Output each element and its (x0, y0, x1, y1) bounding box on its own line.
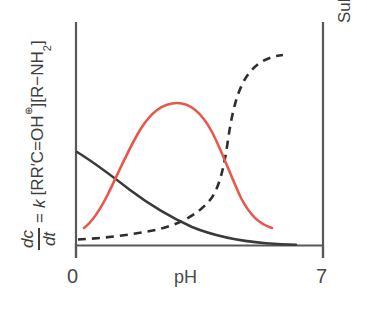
x-tick-label-max: 7 (316, 266, 327, 286)
rate-fraction: dc dt (19, 228, 58, 250)
y-axis-right-title: Substrat-Konzentration (332, 0, 358, 23)
y-axis-left-title: dc dt = k [RR′C=OH⊕][R−NH2] (22, 14, 56, 250)
ph-rate-profile-figure: 0 7 pH Substrat-Konzentration dc dt = k … (0, 0, 367, 309)
reactant-species-expression: [RR′C=OH⊕][R−NH2] (28, 40, 49, 195)
x-tick-label-min: 0 (67, 266, 78, 286)
series-protonated-carbonyl-curve (77, 152, 296, 245)
fraction-numerator: dc (19, 228, 38, 250)
x-axis-title: pH (174, 268, 197, 286)
fraction-denominator: dt (40, 230, 59, 248)
rate-constant-symbol: k (31, 200, 48, 209)
series-reaction-rate-curve (84, 103, 272, 228)
equals-sign: = (31, 212, 48, 224)
positive-charge-icon: ⊕ (23, 107, 34, 115)
series-free-amine-dashed-curve (78, 55, 283, 240)
amine-bracket-open: [R−NH (28, 51, 47, 102)
carbonyl-bracket-open: [RR′C=OH (28, 115, 47, 195)
amine-subscript: 2 (41, 45, 53, 51)
